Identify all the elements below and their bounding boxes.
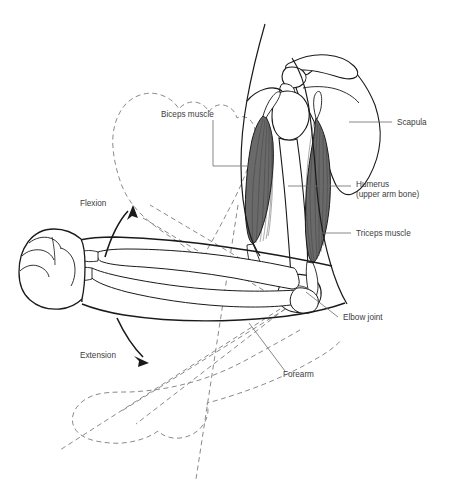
forearm-bones bbox=[73, 249, 318, 313]
fist bbox=[19, 229, 85, 309]
flexion-arrow-head bbox=[127, 205, 138, 220]
construction-line-1 bbox=[60, 286, 316, 450]
label-forearm: Forearm bbox=[283, 370, 314, 379]
label-triceps-muscle: Triceps muscle bbox=[356, 229, 411, 238]
label-humerus-subtitle: (upper arm bone) bbox=[356, 190, 420, 199]
extension-arrow-head bbox=[134, 356, 149, 367]
extension-arrow-shaft bbox=[117, 318, 143, 357]
label-biceps-muscle: Biceps muscle bbox=[161, 110, 214, 119]
label-flexion: Flexion bbox=[80, 199, 107, 208]
anatomy-diagram: Biceps muscle Scapula Humerus (upper arm… bbox=[0, 0, 450, 479]
label-extension: Extension bbox=[80, 351, 116, 360]
label-scapula: Scapula bbox=[397, 118, 427, 127]
extension-axis-line bbox=[120, 300, 300, 412]
label-elbow-joint: Elbow joint bbox=[343, 313, 383, 322]
extended-position-outline bbox=[72, 330, 342, 443]
label-humerus: Humerus bbox=[356, 180, 389, 189]
forearm-leader bbox=[249, 323, 285, 371]
